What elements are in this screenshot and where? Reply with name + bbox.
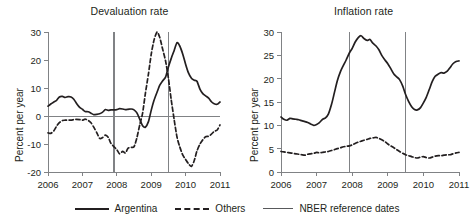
y-axis-tick-label: 30: [263, 27, 274, 38]
y-axis-tick-label: 20: [263, 73, 274, 84]
x-axis-tick-label: 2008: [106, 179, 127, 190]
series-line-argentina: [281, 36, 459, 126]
legend-line-glyph: [263, 208, 293, 209]
chart-legend: ArgentinaOthersNBER reference dates: [0, 196, 474, 220]
y-axis-tick-label: 10: [263, 120, 274, 131]
y-axis-tick-label: 20: [30, 55, 41, 66]
y-axis-tick-label: 0: [269, 167, 274, 178]
y-axis-tick-label: 15: [263, 97, 274, 108]
x-axis-tick-label: 2009: [377, 179, 398, 190]
y-axis-tick-label: 25: [263, 50, 274, 61]
legend-item-label: Others: [215, 203, 245, 214]
x-axis-tick-label: 2007: [306, 179, 327, 190]
plot-area-inflation: 051015202530200620072008200920102011: [281, 32, 459, 172]
y-axis-tick-label: -10: [27, 139, 41, 150]
legend-item-label: NBER reference dates: [299, 203, 399, 214]
y-axis-tick-label: 5: [269, 143, 274, 154]
x-axis-tick-label: 2007: [72, 179, 93, 190]
x-axis-tick-label: 2010: [175, 179, 196, 190]
y-axis-label-left: Percent per year: [14, 88, 25, 162]
x-axis-tick-label: 2006: [270, 179, 291, 190]
x-axis-tick-label: 2009: [141, 179, 162, 190]
dashed-line-icon: [175, 203, 209, 213]
legend-item: NBER reference dates: [263, 203, 399, 214]
series-line-argentina: [48, 43, 220, 128]
panel-title-inflation: Inflation rate: [237, 5, 474, 17]
x-axis-tick-label: 2010: [413, 179, 434, 190]
chart-svg: [48, 32, 220, 172]
legend-item: Others: [175, 203, 245, 214]
y-axis-tick-label: -20: [27, 167, 41, 178]
x-axis-tick-label: 2006: [37, 179, 58, 190]
figure-root: Devaluation rate Percent per year -20-10…: [0, 0, 474, 220]
panel-inflation-rate: Inflation rate Percent per year 05101520…: [237, 0, 474, 196]
legend-item: Argentina: [75, 203, 158, 214]
chart-svg: [281, 32, 459, 172]
legend-row: ArgentinaOthersNBER reference dates: [0, 196, 474, 220]
solid-line-icon: [75, 203, 109, 213]
legend-item-label: Argentina: [115, 203, 158, 214]
legend-line-glyph: [75, 208, 109, 210]
plot-area-devaluation: -20-100102030200620072008200920102011: [48, 32, 220, 172]
y-axis-tick-label: 30: [30, 27, 41, 38]
x-axis-tick-label: 2011: [210, 179, 230, 190]
thin-line-icon: [263, 203, 293, 213]
y-axis-label-right: Percent per year: [249, 88, 260, 162]
legend-line-glyph: [175, 208, 209, 210]
x-axis-tick-label: 2008: [342, 179, 363, 190]
x-axis-tick-label: 2011: [449, 179, 469, 190]
y-axis-tick-label: 10: [30, 83, 41, 94]
panel-devaluation-rate: Devaluation rate Percent per year -20-10…: [0, 0, 237, 196]
panel-title-devaluation: Devaluation rate: [0, 5, 237, 17]
y-axis-tick-label: 0: [36, 111, 41, 122]
series-line-others: [281, 137, 459, 158]
